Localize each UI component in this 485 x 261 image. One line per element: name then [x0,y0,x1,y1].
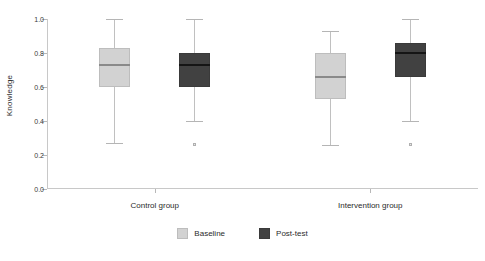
median-line [395,52,426,54]
chart-legend: BaselinePost-test [0,228,485,239]
median-line [179,64,210,66]
y-axis-title-text: Knowledge [6,74,15,115]
plot-area: 0.00.20.40.60.81.0 Control groupInterven… [47,19,478,189]
outlier-point [193,143,196,146]
y-axis-tick-label: 0.6 [34,84,44,91]
whisker-cap-lower [186,121,203,122]
whisker-cap-lower [322,145,339,146]
legend-label: Post-test [276,229,308,238]
y-axis-line [47,19,48,189]
x-axis-tick-mark [155,189,156,193]
median-line [315,76,346,78]
box-iqr [395,43,426,77]
box-iqr [99,48,130,87]
box-plot-group [315,19,346,189]
whisker-cap-upper [402,19,419,20]
legend-item: Post-test [259,228,308,239]
box-plot-group [395,19,426,189]
x-axis-tick-label: Control group [131,201,179,210]
whisker-cap-lower [402,121,419,122]
whisker-cap-lower [106,143,123,144]
y-axis-tick-label: 0.8 [34,50,44,57]
y-axis-tick-label: 1.0 [34,16,44,23]
outlier-point [409,143,412,146]
legend-item: Baseline [177,228,225,239]
box-plot-group [99,19,130,189]
median-line [99,64,130,66]
box-plot-group [179,19,210,189]
whisker-cap-upper [106,19,123,20]
y-axis-title: Knowledge [2,0,18,190]
y-axis-tick-label: 0.4 [34,118,44,125]
whisker-cap-upper [322,31,339,32]
y-axis-tick-label: 0.0 [34,186,44,193]
box-iqr [179,53,210,87]
box-plot-chart: Knowledge 0.00.20.40.60.81.0 Control gro… [0,0,485,261]
y-axis-tick-label: 0.2 [34,152,44,159]
legend-swatch [177,228,188,239]
legend-label: Baseline [194,229,225,238]
x-axis-tick-label: Intervention group [338,201,403,210]
x-axis-tick-mark [370,189,371,193]
legend-swatch [259,228,270,239]
whisker-cap-upper [186,19,203,20]
